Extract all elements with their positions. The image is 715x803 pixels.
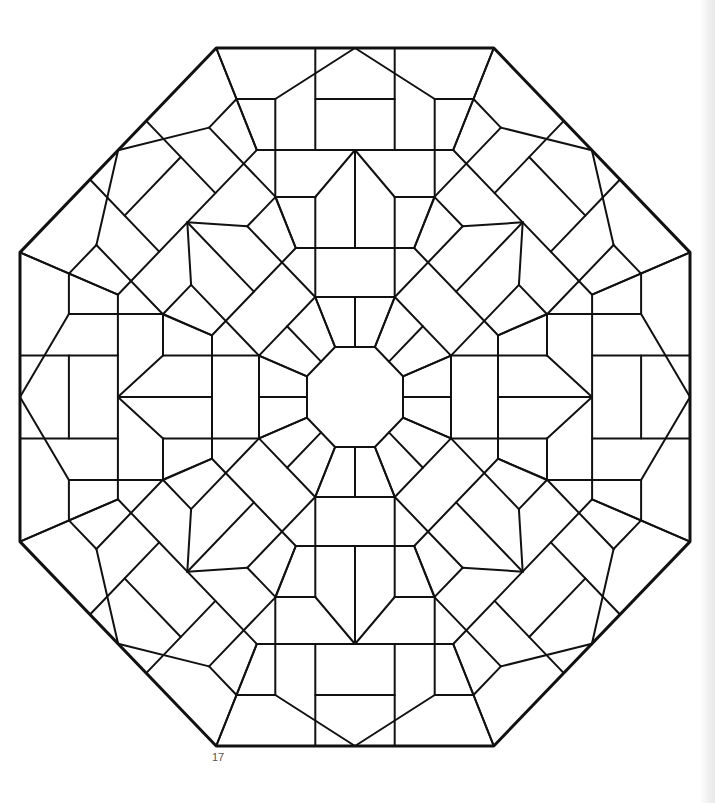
pattern-line [434,597,501,666]
pattern-line [118,356,163,397]
pattern-line [395,497,463,568]
pattern-line [96,480,162,549]
pattern-line [163,480,191,509]
pattern-line [474,99,501,128]
pattern-line [118,397,163,438]
pattern-line [389,432,423,467]
pattern-line [287,326,321,361]
pattern-line [247,197,275,226]
pattern-line [403,418,451,439]
pattern-line [519,285,547,314]
pattern-line [187,509,191,572]
pattern-line [434,568,462,597]
pattern-line [434,128,501,197]
pattern-line [315,297,335,347]
pattern-line [375,447,395,497]
pattern-line [529,578,585,637]
coloring-page: 17 [0,0,715,803]
pattern-line [547,356,592,397]
pattern-line [434,197,462,226]
pattern-line [463,222,523,226]
pattern-line [315,447,335,497]
octagon-mosaic-artwork [0,0,715,803]
pattern-line [187,222,247,226]
pattern-line [498,314,547,335]
pattern-line [389,326,423,361]
page-number: 17 [212,751,224,763]
pattern-line [547,397,592,438]
pattern-line [519,480,547,509]
pattern-line [529,157,585,216]
pattern-line [498,459,547,480]
pattern-line [614,520,642,549]
pattern-line [456,502,523,571]
pattern-line [414,546,435,597]
pattern-line [163,285,191,314]
pattern-line [463,568,523,572]
pattern-line [209,597,276,666]
pattern-line [96,245,162,314]
pattern-line [69,245,97,274]
pattern-line [187,502,254,571]
pattern-line [209,666,236,695]
pattern-line [187,222,254,291]
pattern-line [474,666,501,695]
pattern-line [375,297,395,347]
pattern-line [547,480,614,549]
pattern-line [355,597,395,644]
pattern-line [519,509,523,572]
pattern-line [276,197,296,248]
pattern-line [287,432,321,467]
pattern-line [414,197,434,248]
pattern-line [276,546,296,597]
pattern-line [247,226,315,297]
pattern-line [395,226,463,297]
pattern-line [247,568,275,597]
pattern-line [355,150,395,197]
pattern-line [125,157,181,216]
pattern-line [69,520,97,549]
pattern-line [547,245,614,314]
pattern-line [519,222,523,285]
pattern-line [614,245,642,274]
pattern-line [259,418,307,439]
pattern-line [163,314,212,335]
pattern-line [403,356,451,377]
pattern-line [209,99,236,128]
pattern-line [125,578,181,637]
pattern-line [163,459,212,480]
pattern-line [315,150,355,197]
pattern-line [209,128,276,197]
pattern-line [259,356,307,377]
pattern-line [315,597,355,644]
pattern-line [187,222,191,285]
pattern-line [456,222,523,291]
pattern-line [247,497,315,568]
pattern-line [187,568,247,572]
